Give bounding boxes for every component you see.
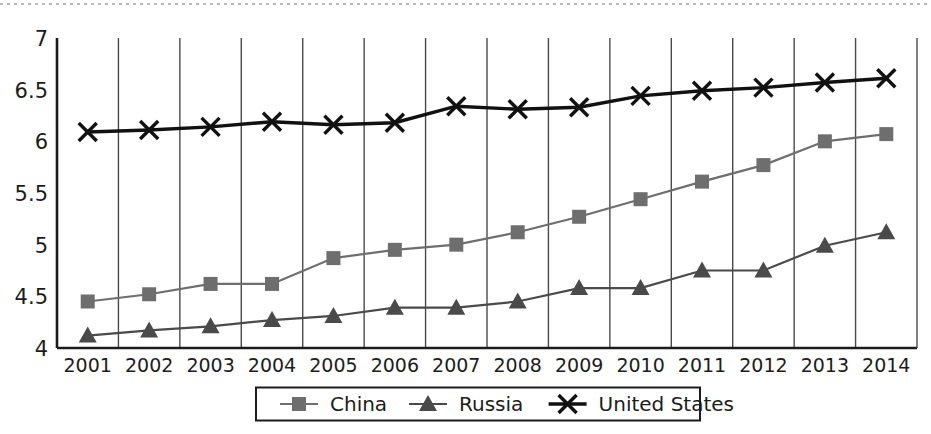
square-marker: [879, 127, 893, 141]
x-axis-tick-label: 2013: [801, 354, 849, 376]
x-axis-tick-label: 2002: [125, 354, 173, 376]
triangle-marker: [877, 223, 895, 239]
x-axis-tick-label: 2009: [555, 354, 603, 376]
square-marker: [81, 295, 95, 309]
square-marker: [142, 287, 156, 301]
x-axis-tick-label: 2001: [64, 354, 112, 376]
square-marker: [265, 277, 279, 291]
y-axis-tick-label: 5.5: [15, 182, 48, 206]
square-marker: [204, 277, 218, 291]
x-axis-tick-label: 2006: [371, 354, 419, 376]
square-marker: [449, 238, 463, 252]
y-axis-tick-label: 6.5: [15, 79, 48, 103]
square-marker: [326, 251, 340, 265]
chart-canvas: 44.555.566.57200120022003200420052006200…: [0, 0, 931, 434]
legend-label: United States: [599, 392, 734, 416]
square-marker: [292, 397, 306, 411]
square-marker: [756, 158, 770, 172]
legend-label: Russia: [459, 392, 523, 416]
y-axis-tick-label: 5: [35, 234, 48, 258]
line-chart: 44.555.566.57200120022003200420052006200…: [0, 0, 931, 434]
x-axis-tick-label: 2005: [309, 354, 357, 376]
y-axis-tick-label: 7: [35, 27, 48, 51]
square-marker: [511, 225, 525, 239]
square-marker: [388, 243, 402, 257]
square-marker: [572, 210, 586, 224]
x-axis-tick-label: 2008: [494, 354, 542, 376]
legend-label: China: [330, 392, 387, 416]
square-marker: [695, 175, 709, 189]
x-axis-tick-label: 2003: [186, 354, 234, 376]
x-axis-tick-label: 2014: [862, 354, 910, 376]
x-axis-tick-label: 2011: [678, 354, 726, 376]
y-axis-tick-label: 4: [35, 337, 48, 361]
x-axis-tick-label: 2010: [616, 354, 664, 376]
x-axis-tick-label: 2012: [739, 354, 787, 376]
square-marker: [634, 192, 648, 206]
square-marker: [818, 134, 832, 148]
x-axis-tick-label: 2004: [248, 354, 296, 376]
y-axis-tick-label: 6: [35, 130, 48, 154]
y-axis-tick-label: 4.5: [15, 285, 48, 309]
chart-legend: ChinaRussiaUnited States: [256, 388, 734, 421]
x-axis-tick-label: 2007: [432, 354, 480, 376]
legend-item-united-states[interactable]: United States: [549, 392, 734, 416]
